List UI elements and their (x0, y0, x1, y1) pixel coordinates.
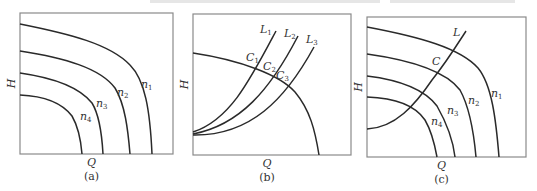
y-axis-label: H (178, 79, 191, 90)
figure-stage: HQ(a)n1n2n3n4HQ(b)L1L2L3C1C2C3HQ(c)n1n2n… (0, 0, 537, 191)
speed-curve-n2 (20, 51, 130, 154)
panel-caption: (c) (434, 173, 449, 186)
speed-curve-label-n4: n4 (431, 115, 443, 129)
panel-caption: (a) (84, 170, 99, 183)
pump-characteristic-figure: HQ(a)n1n2n3n4HQ(b)L1L2L3C1C2C3HQ(c)n1n2n… (0, 0, 537, 191)
speed-curve-label-n3: n3 (447, 104, 459, 118)
speed-curve-label-n4: n4 (80, 110, 92, 124)
y-axis-label: H (352, 82, 365, 93)
y-axis-label: H (5, 78, 18, 89)
x-axis-label: Q (262, 157, 271, 170)
speed-curve-label-n1: n1 (491, 87, 503, 101)
cutoff-text-strip-2 (390, 0, 515, 3)
system-curve-label-L2: L2 (283, 27, 296, 41)
operating-point-label-C2: C2 (263, 60, 276, 74)
cutoff-text-strip (150, 0, 380, 3)
plot-frame (193, 14, 351, 155)
speed-curve-label-n2: n2 (117, 86, 129, 100)
speed-curve-label-n2: n2 (468, 94, 480, 108)
panel-a: HQ(a)n1n2n3n4 (5, 13, 173, 183)
plot-frame (367, 17, 526, 157)
speed-curve-n3 (20, 73, 103, 154)
system-curve-label-L3: L3 (305, 33, 318, 47)
operating-point-label-C: C (432, 55, 441, 68)
panels-group: HQ(a)n1n2n3n4HQ(b)L1L2L3C1C2C3HQ(c)n1n2n… (5, 13, 526, 186)
speed-curve-n3 (367, 76, 455, 157)
speed-curve-n2 (367, 54, 476, 157)
system-curve-label-L: L (452, 26, 460, 39)
panel-c: HQ(c)n1n2n3n4LC (352, 17, 526, 186)
panel-caption: (b) (259, 171, 275, 184)
operating-point-label-C3: C3 (276, 69, 289, 83)
speed-curve-n4 (20, 95, 82, 154)
panel-b: HQ(b)L1L2L3C1C2C3 (178, 14, 351, 184)
speed-curve-label-n1: n1 (141, 78, 153, 92)
system-curve-label-L1: L1 (259, 23, 272, 37)
x-axis-label: Q (437, 159, 446, 172)
operating-point-label-C1: C1 (246, 51, 259, 65)
x-axis-label: Q (87, 156, 96, 169)
speed-curve-label-n3: n3 (96, 97, 108, 111)
speed-curve-n1 (20, 24, 152, 154)
